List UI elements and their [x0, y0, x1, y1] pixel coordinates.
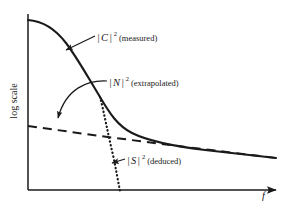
- label-extrapolated: |N|2(extrapolated): [108, 76, 179, 88]
- y-axis-label: log scale: [9, 71, 19, 131]
- label-measured-paren: (measured): [117, 33, 157, 43]
- label-measured: |C|2(measured): [96, 31, 157, 43]
- annotation-arrow-c: [66, 36, 95, 50]
- figure-root: |C|2(measured) |N|2(extrapolated) |S|2(d…: [0, 0, 294, 211]
- x-axis-label: f: [262, 191, 265, 202]
- label-deduced: |S|2(deduced): [126, 154, 181, 166]
- label-deduced-paren: (deduced): [145, 156, 181, 166]
- label-extrapolated-paren: (extrapolated): [129, 78, 179, 88]
- annotation-arrow-n: [58, 81, 107, 118]
